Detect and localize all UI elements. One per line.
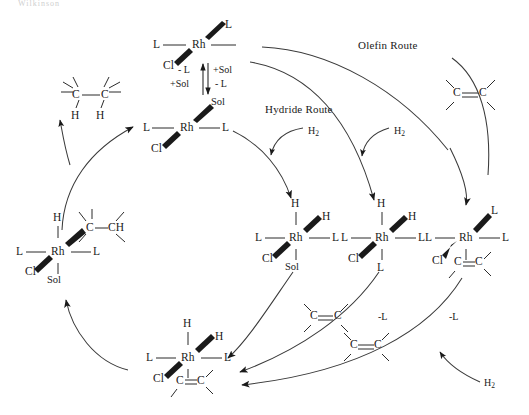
atom-l-top-wedge: L [225,19,232,31]
atom-l-solvate-left: L [143,122,150,134]
label-minus-l-mid: -L [378,312,387,322]
atom-h-dihydride-l3-top: H [377,198,385,210]
atom-l-olefin-right: L [502,232,509,244]
atom-c-olefin-complex-left: C [454,256,462,268]
atom-l-dihydride-l3-bottom: L [377,262,384,274]
atom-l-alkyl-right: L [93,246,100,258]
label-olefin-route: Olefin Route [358,40,418,51]
atom-rh-dihydride-l3: Rh [375,232,388,244]
atom-c-olefin-complex-right: C [475,256,483,268]
atom-h-alkyl-top: H [53,212,61,224]
atom-cl-top: Cl [163,60,174,72]
vector-layer [0,0,529,415]
atom-sol-alkyl: Sol [47,275,61,286]
atom-l-olefin-wedge: L [491,205,498,217]
atom-c-bottom-olefin-right: C [197,375,205,387]
atom-l-dihydride-l3-right: L [418,232,425,244]
label-hydride-route: Hydride Route [265,104,333,115]
atom-l-dihydride-sol-right: L [332,232,339,244]
atom-l-top-left: L [153,39,160,51]
atom-h-dihydride-sol-top: H [291,198,299,210]
atom-c-bottom-olefin-left: C [176,375,184,387]
label-minus-l-equilibrium-2: - L [215,79,227,89]
atom-c-alkane-right: C [101,89,109,101]
atom-rh-top-complex: Rh [192,39,205,51]
atom-sol-solvate: Sol [211,97,225,108]
atom-c-alkene-mid-left: C [310,310,318,322]
label-minus-l-equilibrium: - L [178,65,190,75]
h2-subscript: 2 [315,129,319,138]
label-h2-hydride-left: H2 [308,126,319,137]
atom-c-alkene-topright-left: C [453,87,461,99]
atom-h-alkane-left: H [71,110,79,122]
label-h2-bottom-right: H2 [484,378,495,389]
atom-ch-alkyl-fragment: CH [108,222,124,234]
atom-cl-alkyl: Cl [25,266,36,278]
atom-rh-olefin-complex: Rh [459,232,472,244]
label-plus-sol-equilibrium-2: +Sol [213,65,232,75]
label-h2-hydride-right: H2 [394,126,405,137]
atom-l-solvate-right: L [222,122,229,134]
atom-c-alkene-low-right: C [374,339,382,351]
atom-c-alkene-low-left: C [350,339,358,351]
label-minus-l-right: -L [449,312,458,322]
atom-h-bottom-wedge: H [215,331,223,343]
atom-c-alkene-mid-right: C [334,310,342,322]
atom-l-alkyl-left: L [16,246,23,258]
label-plus-sol-equilibrium: +Sol [170,79,189,89]
atom-sol-dihydride: Sol [285,262,299,273]
atom-c-alkyl-fragment: C [86,222,94,234]
h2-subscript: 2 [491,381,495,390]
atom-h-dihydride-sol-wedge: H [322,211,330,223]
atom-l-dihydride-l3-left: L [341,232,348,244]
atom-cl-bottom: Cl [153,373,164,385]
atom-l-olefin-left: L [425,232,432,244]
atom-cl-solvate: Cl [151,143,162,155]
atom-rh-bottom-complex: Rh [181,352,194,364]
h2-subscript: 2 [401,129,405,138]
atom-l-bottom-right: L [224,352,231,364]
atom-cl-dihydride-sol: Cl [262,253,273,265]
atom-c-alkane-left: C [72,89,80,101]
atom-cl-dihydride-l3: Cl [348,253,359,265]
atom-l-dihydride-sol-left: L [255,232,262,244]
atom-l-bottom-left: L [146,352,153,364]
atom-h-alkane-right: H [96,110,104,122]
atom-c-alkene-topright-right: C [479,87,487,99]
atom-rh-dihydride-sol: Rh [289,232,302,244]
atom-h-dihydride-l3-wedge: H [408,211,416,223]
catalytic-cycle-diagram: Wilkinson [0,0,529,415]
top-partial-text: Wilkinson [18,0,60,6]
atom-rh-solvate-complex: Rh [180,122,193,134]
atom-rh-alkyl-complex: Rh [51,246,64,258]
atom-cl-olefin-complex: Cl [432,255,443,267]
atom-h-bottom-top: H [183,318,191,330]
